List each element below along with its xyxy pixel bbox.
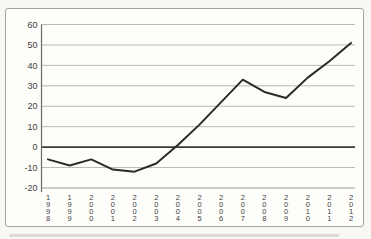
data-series-line	[48, 43, 351, 172]
y-tick-label: 20	[27, 101, 37, 111]
x-tick-label: 1998	[46, 193, 50, 223]
scan-artifact-line	[9, 234, 339, 237]
x-tick-label: 2012	[349, 193, 353, 223]
x-tick-label: 2001	[111, 193, 115, 223]
x-tick-label: 2003	[154, 193, 158, 223]
y-tick-label: 60	[27, 20, 37, 30]
y-tick-label: 50	[27, 40, 37, 50]
y-tick-label: -10	[24, 163, 37, 173]
x-tick-label: 2011	[327, 193, 331, 223]
y-tick-label: 40	[27, 61, 37, 71]
x-tick-label: 2008	[262, 193, 266, 223]
x-tick-label: 2007	[241, 193, 245, 223]
x-tick-label: 1999	[68, 193, 72, 223]
x-tick-label: 2000	[89, 193, 93, 223]
y-tick-label: 30	[27, 81, 37, 91]
x-tick-label: 2009	[284, 193, 288, 223]
y-tick-label: 10	[27, 122, 37, 132]
x-tick-label: 2006	[219, 193, 223, 223]
line-chart: 6050403020100-10-20199819992000200120022…	[0, 0, 371, 239]
x-tick-label: 2010	[306, 193, 310, 223]
x-tick-label: 2002	[132, 193, 136, 223]
x-tick-label: 2005	[197, 193, 201, 223]
y-tick-label: -20	[24, 183, 37, 193]
y-tick-label: 0	[32, 142, 37, 152]
x-tick-label: 2004	[176, 193, 180, 223]
